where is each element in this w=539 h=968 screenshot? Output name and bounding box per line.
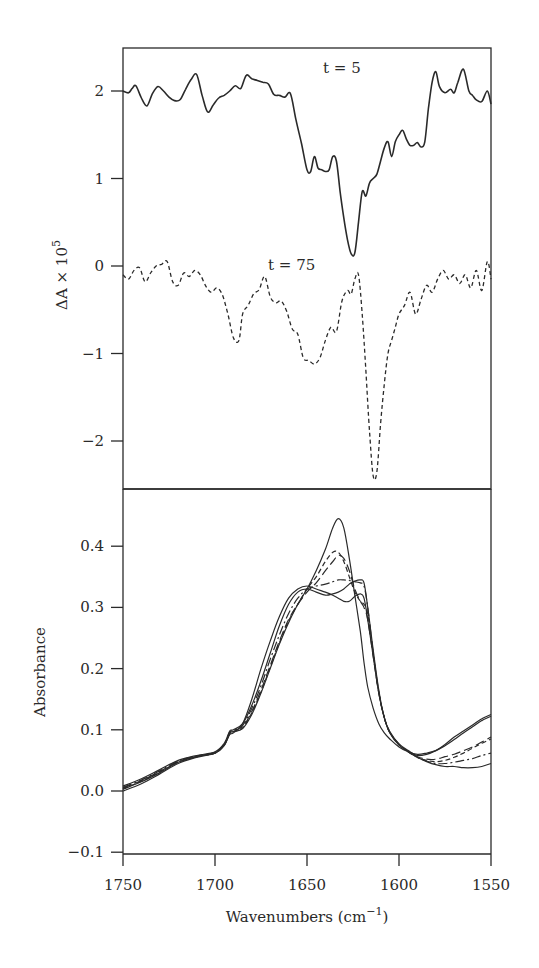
y-tick-label: −0.1 <box>68 843 104 861</box>
bottom-y-axis-label: Absorbance <box>31 627 49 718</box>
y-tick-label: −2 <box>82 432 104 450</box>
spectrum-line <box>123 69 491 256</box>
y-tick-label: 0.1 <box>80 721 104 739</box>
top-y-axis-ticks: 210−1−2 <box>82 82 123 450</box>
x-tick-label: 1700 <box>196 876 234 894</box>
absorbance-line <box>123 580 491 786</box>
top-panel: 210−1−2 t = 5 t = 75 ΔA × 105 <box>50 48 491 489</box>
absorbance-line <box>123 551 491 788</box>
y-tick-label: 0.4 <box>80 537 104 555</box>
bottom-panel: 0.40.30.20.10.0−0.1 17501700165016001550… <box>31 489 510 926</box>
y-tick-label: 0 <box>94 257 104 275</box>
y-tick-label: 0.0 <box>80 782 104 800</box>
absorbance-line <box>123 580 491 788</box>
absorbance-line <box>123 519 491 790</box>
bottom-x-axis-ticks: 17501700165016001550 <box>104 854 510 894</box>
bottom-x-axis-label: Wavenumbers (cm−1) <box>226 905 389 926</box>
y-tick-label: 2 <box>94 82 104 100</box>
x-tick-label: 1750 <box>104 876 142 894</box>
x-tick-label: 1550 <box>472 876 510 894</box>
y-tick-label: 1 <box>94 170 104 188</box>
annotation-t75: t = 75 <box>268 256 315 274</box>
top-curves <box>123 69 491 480</box>
y-tick-label: −1 <box>82 345 104 363</box>
x-tick-label: 1600 <box>380 876 418 894</box>
bottom-curves <box>123 519 491 791</box>
y-tick-label: 0.3 <box>80 598 104 616</box>
spectrum-line <box>123 261 491 480</box>
ir-spectra-figure: 210−1−2 t = 5 t = 75 ΔA × 105 0.40.30.20… <box>0 0 539 968</box>
top-y-axis-label: ΔA × 105 <box>50 240 71 310</box>
x-tick-label: 1650 <box>288 876 326 894</box>
y-tick-label: 0.2 <box>80 660 104 678</box>
bottom-y-axis-ticks: 0.40.30.20.10.0−0.1 <box>68 537 123 861</box>
annotation-t5: t = 5 <box>323 59 361 77</box>
